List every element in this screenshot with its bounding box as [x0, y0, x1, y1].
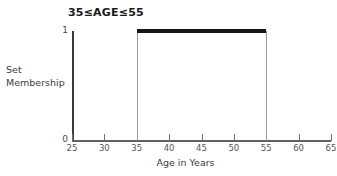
x-tick-mark	[72, 134, 73, 141]
riser-right-55	[266, 31, 267, 141]
chart-title: 35≤AGE≤55	[68, 6, 144, 19]
x-tick-mark	[331, 134, 332, 141]
x-tick-label: 55	[255, 143, 277, 153]
y-tick-label-1: 1	[54, 25, 68, 35]
x-tick-label: 25	[61, 143, 83, 153]
membership-function-chart: 35≤AGE≤55 1 0 253035404550556065 Set Mem…	[0, 0, 337, 176]
x-axis-title: Age in Years	[0, 157, 337, 168]
x-tick-label: 40	[158, 143, 180, 153]
x-tick-mark	[169, 134, 170, 141]
y-axis-title-line-1: Set	[6, 63, 68, 76]
plateau-line	[137, 29, 267, 33]
x-tick-label: 35	[126, 143, 148, 153]
y-axis-title: Set Membership	[6, 63, 68, 89]
riser-left-35	[137, 31, 138, 141]
x-tick-mark	[104, 134, 105, 141]
x-tick-mark	[202, 134, 203, 141]
x-tick-label: 45	[191, 143, 213, 153]
y-axis-title-line-2: Membership	[6, 76, 68, 89]
x-tick-label: 30	[93, 143, 115, 153]
x-tick-label: 60	[288, 143, 310, 153]
x-tick-label: 50	[223, 143, 245, 153]
x-tick-label: 65	[320, 143, 337, 153]
x-tick-mark	[234, 134, 235, 141]
y-axis-line	[72, 31, 74, 142]
x-tick-mark	[299, 134, 300, 141]
